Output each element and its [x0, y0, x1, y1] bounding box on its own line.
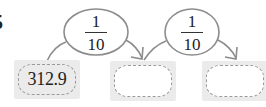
connector-line-2: [144, 41, 166, 60]
connector-line-1: [47, 42, 66, 61]
value-box-1-dashed: 312.9: [18, 64, 76, 95]
answer-box-3-dashed[interactable]: [206, 65, 264, 97]
arrow-2: [218, 40, 236, 58]
operator-fraction-1: 1 10: [85, 13, 107, 53]
answer-box-2-dashed[interactable]: [114, 65, 172, 97]
operator-fraction-2: 1 10: [181, 13, 203, 53]
fraction-numerator: 1: [92, 13, 101, 30]
arrow-1: [126, 40, 142, 58]
answer-box-3[interactable]: [202, 61, 266, 101]
value-box-1: 312.9: [14, 60, 80, 99]
fraction-numerator: 1: [188, 13, 197, 30]
fraction-denominator: 10: [184, 36, 201, 53]
value-box-1-text: 312.9: [27, 69, 66, 90]
answer-box-2[interactable]: [110, 61, 176, 101]
fraction-bar: [181, 32, 203, 33]
fraction-denominator: 10: [88, 36, 105, 53]
fraction-bar: [85, 32, 107, 33]
